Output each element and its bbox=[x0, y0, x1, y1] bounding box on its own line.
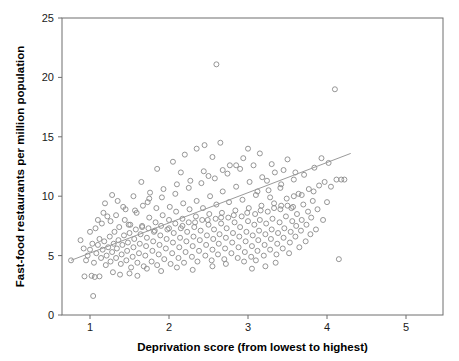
data-point bbox=[159, 269, 164, 274]
data-point bbox=[306, 209, 311, 214]
data-point bbox=[97, 236, 102, 241]
data-point bbox=[278, 185, 283, 190]
data-point bbox=[167, 226, 172, 231]
data-point bbox=[186, 185, 191, 190]
plot-frame bbox=[62, 18, 443, 315]
data-point bbox=[308, 232, 313, 237]
data-point bbox=[174, 182, 179, 187]
data-point bbox=[182, 152, 187, 157]
data-point bbox=[131, 194, 136, 199]
data-point bbox=[168, 261, 173, 266]
trendline bbox=[71, 153, 351, 260]
data-point bbox=[249, 244, 254, 249]
data-point bbox=[217, 232, 222, 237]
data-point bbox=[317, 183, 322, 188]
data-point bbox=[188, 178, 193, 183]
data-point bbox=[204, 242, 209, 247]
data-point bbox=[279, 182, 284, 187]
data-point bbox=[155, 166, 160, 171]
data-point bbox=[201, 169, 206, 174]
data-point bbox=[321, 217, 326, 222]
data-point bbox=[319, 156, 324, 161]
data-point bbox=[120, 242, 125, 247]
data-point bbox=[177, 245, 182, 250]
data-point bbox=[299, 193, 304, 198]
data-point bbox=[151, 239, 156, 244]
data-point bbox=[252, 222, 257, 227]
data-point bbox=[174, 209, 179, 214]
data-point bbox=[137, 241, 142, 246]
data-point bbox=[246, 206, 251, 211]
data-point bbox=[223, 261, 228, 266]
data-point bbox=[256, 238, 261, 243]
data-point bbox=[170, 240, 175, 245]
y-tick-label: 25 bbox=[42, 12, 54, 24]
data-point bbox=[156, 252, 161, 257]
data-point bbox=[135, 273, 140, 278]
data-point bbox=[215, 252, 220, 257]
data-point bbox=[174, 265, 179, 270]
data-point bbox=[230, 240, 235, 245]
data-point bbox=[197, 238, 202, 243]
data-point bbox=[302, 172, 307, 177]
data-point bbox=[251, 163, 256, 168]
data-point bbox=[213, 216, 218, 221]
data-point bbox=[231, 213, 236, 218]
data-point bbox=[301, 202, 306, 207]
data-point bbox=[181, 201, 186, 206]
data-point bbox=[133, 227, 138, 232]
data-point bbox=[185, 229, 190, 234]
data-point bbox=[263, 264, 268, 269]
data-point bbox=[104, 253, 109, 258]
y-tick-label: 10 bbox=[42, 190, 54, 202]
data-point bbox=[306, 187, 311, 192]
data-point bbox=[147, 215, 152, 220]
data-point bbox=[202, 143, 207, 148]
data-point bbox=[192, 225, 197, 230]
data-point bbox=[272, 206, 277, 211]
data-point bbox=[332, 87, 337, 92]
data-point bbox=[263, 232, 268, 237]
data-point bbox=[207, 212, 212, 217]
data-point bbox=[226, 215, 231, 220]
data-point bbox=[257, 217, 262, 222]
data-point bbox=[171, 231, 176, 236]
data-point bbox=[227, 163, 232, 168]
data-point bbox=[315, 207, 320, 212]
data-point bbox=[224, 226, 229, 231]
data-point bbox=[170, 159, 175, 164]
data-point bbox=[210, 155, 215, 160]
data-point bbox=[153, 220, 158, 225]
data-point bbox=[249, 266, 254, 271]
data-point bbox=[257, 151, 262, 156]
data-point bbox=[186, 220, 191, 225]
data-point bbox=[178, 235, 183, 240]
data-point bbox=[291, 194, 296, 199]
data-point bbox=[101, 210, 106, 215]
data-point bbox=[84, 258, 89, 263]
data-point bbox=[208, 194, 213, 199]
data-point bbox=[334, 177, 339, 182]
data-point bbox=[239, 214, 244, 219]
data-point bbox=[259, 203, 264, 208]
data-point bbox=[190, 267, 195, 272]
data-point bbox=[216, 241, 221, 246]
data-point bbox=[212, 227, 217, 232]
data-point bbox=[91, 293, 96, 298]
data-point bbox=[170, 251, 175, 256]
data-point bbox=[95, 217, 100, 222]
data-point bbox=[235, 255, 240, 260]
data-point bbox=[242, 259, 247, 264]
y-tick-label: 15 bbox=[42, 131, 54, 143]
data-point bbox=[265, 209, 270, 214]
data-point bbox=[163, 246, 168, 251]
data-point bbox=[242, 250, 247, 255]
data-point bbox=[279, 203, 284, 208]
data-point bbox=[118, 261, 123, 266]
data-point bbox=[108, 259, 113, 264]
data-point bbox=[223, 235, 228, 240]
data-point bbox=[298, 228, 303, 233]
data-point bbox=[219, 210, 224, 215]
data-point bbox=[115, 198, 120, 203]
data-point bbox=[257, 228, 262, 233]
